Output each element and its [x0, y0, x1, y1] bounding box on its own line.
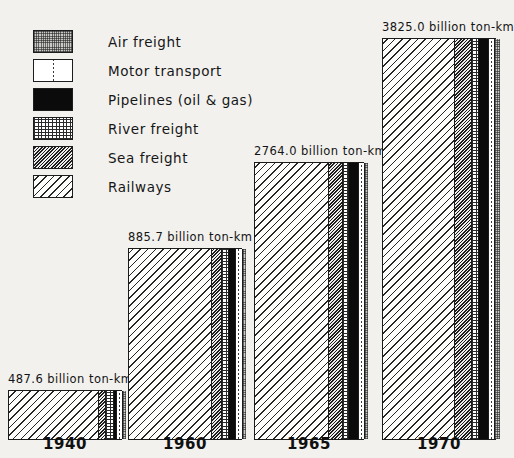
bar-segment-sea[interactable]	[454, 39, 472, 439]
bar-segment-railways[interactable]	[383, 39, 454, 439]
bar-segment-motor[interactable]	[488, 39, 495, 439]
stacked-bar-1970[interactable]	[382, 38, 496, 440]
bar-segment-pipelines[interactable]	[478, 39, 488, 439]
bar-total-label: 3825.0 billion ton-km	[382, 20, 514, 34]
bar-segment-river[interactable]	[471, 39, 478, 439]
bar-segment-air[interactable]	[494, 39, 499, 439]
baseline-axis	[0, 418, 500, 419]
bar-year-label: 1970	[382, 435, 496, 453]
